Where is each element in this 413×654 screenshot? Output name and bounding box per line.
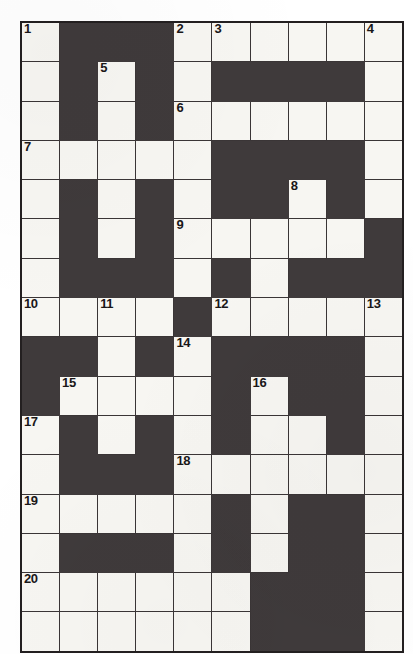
crossword-open-cell[interactable]: 13 [364, 298, 403, 337]
crossword-open-cell[interactable] [288, 298, 326, 337]
crossword-open-cell[interactable] [98, 337, 136, 376]
crossword-open-cell[interactable] [98, 101, 136, 140]
crossword-puzzle[interactable]: 1234567891011121314151617181920 [20, 21, 404, 653]
crossword-open-cell[interactable]: 18 [174, 455, 212, 494]
crossword-open-cell[interactable] [98, 219, 136, 258]
crossword-open-cell[interactable] [98, 415, 136, 454]
crossword-grid[interactable]: 1234567891011121314151617181920 [20, 21, 404, 653]
crossword-open-cell[interactable]: 20 [21, 573, 60, 612]
crossword-open-cell[interactable] [288, 455, 326, 494]
crossword-open-cell[interactable]: 16 [250, 376, 288, 415]
crossword-open-cell[interactable]: 4 [364, 22, 403, 62]
crossword-open-cell[interactable] [136, 494, 174, 533]
crossword-open-cell[interactable] [288, 101, 326, 140]
crossword-open-cell[interactable] [174, 258, 212, 297]
crossword-open-cell[interactable]: 12 [212, 298, 250, 337]
crossword-open-cell[interactable] [326, 101, 364, 140]
crossword-open-cell[interactable] [364, 455, 403, 494]
crossword-open-cell[interactable] [98, 140, 136, 179]
crossword-open-cell[interactable] [250, 258, 288, 297]
crossword-open-cell[interactable] [21, 533, 60, 572]
crossword-open-cell[interactable] [60, 298, 98, 337]
crossword-open-cell[interactable] [364, 573, 403, 612]
crossword-open-cell[interactable] [288, 219, 326, 258]
crossword-open-cell[interactable]: 10 [21, 298, 60, 337]
crossword-open-cell[interactable]: 3 [212, 22, 250, 62]
crossword-open-cell[interactable] [136, 612, 174, 652]
crossword-open-cell[interactable] [250, 533, 288, 572]
crossword-open-cell[interactable] [136, 376, 174, 415]
crossword-open-cell[interactable] [60, 573, 98, 612]
crossword-open-cell[interactable] [21, 219, 60, 258]
crossword-open-cell[interactable] [136, 298, 174, 337]
crossword-open-cell[interactable] [174, 612, 212, 652]
crossword-open-cell[interactable] [364, 337, 403, 376]
crossword-open-cell[interactable] [364, 612, 403, 652]
crossword-open-cell[interactable] [212, 612, 250, 652]
crossword-open-cell[interactable] [364, 62, 403, 101]
crossword-open-cell[interactable] [364, 494, 403, 533]
crossword-open-cell[interactable] [136, 573, 174, 612]
crossword-open-cell[interactable] [326, 22, 364, 62]
crossword-open-cell[interactable] [288, 415, 326, 454]
crossword-open-cell[interactable]: 19 [21, 494, 60, 533]
crossword-open-cell[interactable] [60, 494, 98, 533]
crossword-open-cell[interactable] [326, 455, 364, 494]
crossword-open-cell[interactable] [174, 494, 212, 533]
crossword-open-cell[interactable] [250, 415, 288, 454]
crossword-open-cell[interactable] [250, 101, 288, 140]
crossword-open-cell[interactable]: 1 [21, 22, 60, 62]
crossword-open-cell[interactable] [250, 494, 288, 533]
crossword-open-cell[interactable]: 17 [21, 415, 60, 454]
crossword-open-cell[interactable] [250, 219, 288, 258]
crossword-open-cell[interactable] [21, 101, 60, 140]
crossword-open-cell[interactable] [212, 101, 250, 140]
crossword-open-cell[interactable]: 9 [174, 219, 212, 258]
crossword-open-cell[interactable] [60, 140, 98, 179]
crossword-open-cell[interactable] [364, 415, 403, 454]
crossword-open-cell[interactable] [174, 180, 212, 219]
crossword-open-cell[interactable]: 2 [174, 22, 212, 62]
crossword-open-cell[interactable] [98, 376, 136, 415]
crossword-clue-number: 14 [176, 336, 190, 350]
crossword-open-cell[interactable]: 14 [174, 337, 212, 376]
crossword-open-cell[interactable] [98, 612, 136, 652]
crossword-open-cell[interactable] [21, 258, 60, 297]
crossword-open-cell[interactable]: 6 [174, 101, 212, 140]
crossword-open-cell[interactable] [364, 180, 403, 219]
crossword-open-cell[interactable] [212, 573, 250, 612]
crossword-open-cell[interactable] [136, 140, 174, 179]
crossword-open-cell[interactable] [326, 298, 364, 337]
crossword-open-cell[interactable] [174, 533, 212, 572]
crossword-open-cell[interactable] [212, 219, 250, 258]
crossword-open-cell[interactable]: 7 [21, 140, 60, 179]
crossword-open-cell[interactable] [21, 612, 60, 652]
crossword-open-cell[interactable] [250, 22, 288, 62]
crossword-open-cell[interactable] [21, 455, 60, 494]
crossword-open-cell[interactable] [364, 101, 403, 140]
crossword-open-cell[interactable] [174, 140, 212, 179]
crossword-open-cell[interactable] [60, 612, 98, 652]
crossword-open-cell[interactable] [174, 376, 212, 415]
crossword-open-cell[interactable] [174, 415, 212, 454]
crossword-open-cell[interactable] [174, 573, 212, 612]
crossword-open-cell[interactable] [212, 455, 250, 494]
crossword-open-cell[interactable] [326, 219, 364, 258]
crossword-clue-number: 17 [24, 415, 38, 429]
crossword-open-cell[interactable] [364, 533, 403, 572]
crossword-open-cell[interactable] [21, 62, 60, 101]
crossword-open-cell[interactable]: 8 [288, 180, 326, 219]
crossword-open-cell[interactable] [250, 455, 288, 494]
crossword-open-cell[interactable] [98, 180, 136, 219]
crossword-open-cell[interactable] [98, 494, 136, 533]
crossword-open-cell[interactable] [364, 376, 403, 415]
crossword-open-cell[interactable]: 11 [98, 298, 136, 337]
crossword-open-cell[interactable]: 5 [98, 62, 136, 101]
crossword-open-cell[interactable] [288, 22, 326, 62]
crossword-open-cell[interactable] [174, 62, 212, 101]
crossword-open-cell[interactable] [364, 140, 403, 179]
crossword-open-cell[interactable] [21, 180, 60, 219]
crossword-open-cell[interactable]: 15 [60, 376, 98, 415]
crossword-open-cell[interactable] [98, 573, 136, 612]
crossword-open-cell[interactable] [250, 298, 288, 337]
